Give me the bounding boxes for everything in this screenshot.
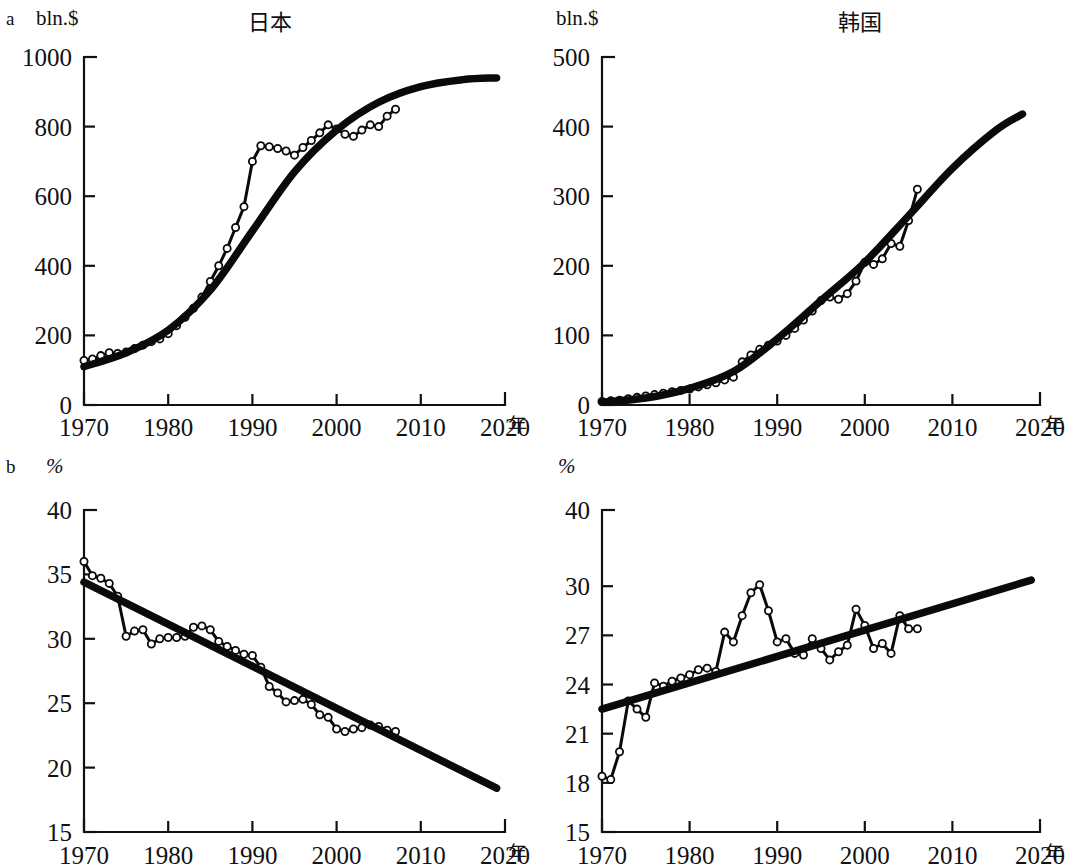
data-point-marker — [316, 711, 323, 718]
x-axis-tick-label: 1970 — [577, 414, 627, 441]
data-point-marker — [879, 255, 886, 262]
chart-title-korea: 韩国 — [770, 4, 950, 36]
data-point-marker — [598, 773, 605, 780]
x-axis-tick-label: 1990 — [227, 414, 277, 441]
data-point-marker — [782, 635, 789, 642]
x-axis-tick-label: 1980 — [665, 414, 715, 441]
data-point-marker — [730, 638, 737, 645]
data-point-marker — [215, 638, 222, 645]
y-axis-tick-label: 400 — [35, 253, 73, 280]
data-point-marker — [316, 129, 323, 136]
x-axis-tick-label: 1980 — [143, 414, 193, 441]
data-point-marker — [721, 628, 728, 635]
y-axis-tick-label: 18 — [565, 770, 590, 797]
observed-series-line — [84, 109, 396, 360]
data-point-marker — [879, 640, 886, 647]
data-point-marker — [704, 665, 711, 672]
axis-spine — [84, 57, 505, 405]
data-point-marker — [207, 626, 214, 633]
x-axis-year-suffix-japan-exports: 年 — [508, 410, 527, 437]
data-point-marker — [131, 627, 138, 634]
x-axis-tick-label: 1970 — [59, 414, 109, 441]
y-axis-tick-label: 24 — [565, 672, 591, 699]
data-point-marker — [686, 671, 693, 678]
data-point-marker — [215, 262, 222, 269]
x-axis-tick-label: 1990 — [227, 842, 277, 867]
x-axis-year-suffix-korea-exports: 年 — [1045, 410, 1064, 437]
data-point-marker — [274, 689, 281, 696]
panel-b-japan: b % 年 1520253035401970198019902000201020… — [0, 440, 545, 867]
y-axis-unit-label-japan-share: % — [46, 454, 64, 479]
data-point-marker — [232, 224, 239, 231]
data-point-marker — [198, 622, 205, 629]
y-axis-tick-label: 500 — [553, 44, 591, 71]
x-axis-tick-label: 1970 — [577, 842, 627, 867]
data-point-marker — [299, 144, 306, 151]
panel-b-korea: % 年 151821242730401970198019902000201020… — [540, 440, 1087, 867]
data-point-marker — [844, 642, 851, 649]
x-axis-tick-label: 2000 — [312, 414, 362, 441]
observed-series-line — [602, 585, 917, 780]
data-point-marker — [308, 137, 315, 144]
data-point-marker — [367, 121, 374, 128]
y-axis-tick-label: 300 — [553, 183, 591, 210]
axis-spine — [602, 57, 1040, 405]
x-axis-tick-label: 1990 — [752, 842, 802, 867]
y-axis-tick-label: 30 — [47, 626, 72, 653]
data-point-marker — [852, 278, 859, 285]
y-axis-tick-label: 40 — [47, 497, 72, 524]
data-point-marker — [739, 612, 746, 619]
x-axis-tick-label: 1980 — [143, 842, 193, 867]
data-point-marker — [173, 634, 180, 641]
y-axis-tick-label: 200 — [35, 322, 73, 349]
data-point-marker — [633, 706, 640, 713]
data-point-marker — [224, 245, 231, 252]
data-point-marker — [282, 698, 289, 705]
x-axis-tick-label: 2010 — [396, 414, 446, 441]
data-point-marker — [97, 575, 104, 582]
data-point-marker — [870, 645, 877, 652]
trend-line — [84, 582, 497, 788]
data-point-marker — [375, 123, 382, 130]
data-point-marker — [756, 581, 763, 588]
data-point-marker — [835, 648, 842, 655]
y-axis-tick-label: 800 — [35, 114, 73, 141]
y-axis-tick-label: 30 — [565, 573, 590, 600]
data-point-marker — [325, 714, 332, 721]
data-point-marker — [852, 606, 859, 613]
y-axis-tick-label: 40 — [565, 497, 590, 524]
data-point-marker — [266, 683, 273, 690]
data-point-marker — [139, 626, 146, 633]
y-axis-tick-label: 200 — [553, 253, 591, 280]
data-point-marker — [350, 725, 357, 732]
data-point-marker — [358, 126, 365, 133]
data-point-marker — [325, 121, 332, 128]
chart-korea-share: 15182124273040197019801990200020102020 — [540, 440, 1087, 867]
panel-a-korea: bln.$ 韩国 年 01002003004005001970198019902… — [540, 0, 1087, 440]
data-point-marker — [156, 635, 163, 642]
y-axis-unit-label-japan-exports: bln.$ — [36, 6, 79, 31]
data-point-marker — [905, 625, 912, 632]
y-axis-tick-label: 27 — [565, 622, 590, 649]
data-point-marker — [190, 624, 197, 631]
trend-curve — [602, 114, 1022, 402]
data-point-marker — [350, 133, 357, 140]
y-axis-tick-label: 100 — [553, 322, 591, 349]
data-point-marker — [826, 656, 833, 663]
axis-spine — [84, 510, 505, 832]
data-point-marker — [642, 714, 649, 721]
data-point-marker — [651, 679, 658, 686]
x-axis-tick-label: 2000 — [840, 414, 890, 441]
data-point-marker — [747, 589, 754, 596]
data-point-marker — [616, 748, 623, 755]
data-point-marker — [165, 634, 172, 641]
data-point-marker — [249, 652, 256, 659]
data-point-marker — [695, 666, 702, 673]
data-point-marker — [870, 261, 877, 268]
y-axis-tick-label: 1000 — [22, 44, 72, 71]
chart-title-japan: 日本 — [180, 4, 360, 36]
data-point-marker — [844, 290, 851, 297]
y-axis-tick-label: 25 — [47, 690, 72, 717]
data-point-marker — [607, 776, 614, 783]
data-point-marker — [392, 106, 399, 113]
